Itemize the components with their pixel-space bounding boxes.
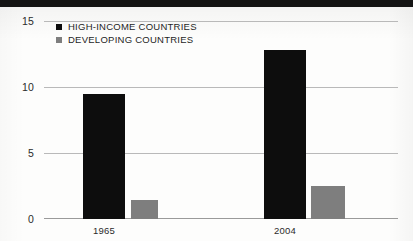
bar-developing-2004 — [311, 186, 345, 219]
x-axis-label-1965: 1965 — [83, 226, 125, 236]
gridline-10 — [44, 87, 398, 88]
bar-high-income-2004 — [264, 50, 306, 219]
legend-label-developing: DEVELOPING COUNTRIES — [68, 35, 193, 45]
y-axis-tick-10: 10 — [4, 82, 34, 93]
bar-chart: 15 10 5 0 1965 2004 HIGH-INCOME COUNTRIE… — [0, 0, 413, 241]
x-axis-label-2004: 2004 — [264, 226, 306, 236]
y-axis-tick-0: 0 — [4, 214, 34, 225]
y-axis-tick-15: 15 — [4, 16, 34, 27]
plot-area — [44, 21, 398, 219]
bar-developing-1965 — [131, 200, 158, 219]
scan-edge-strip — [0, 0, 413, 7]
bar-high-income-1965 — [83, 94, 125, 219]
legend-item-developing: DEVELOPING COUNTRIES — [56, 33, 197, 46]
legend-swatch-icon-developing — [56, 37, 62, 43]
legend-label-high-income: HIGH-INCOME COUNTRIES — [68, 22, 197, 32]
legend-item-high-income: HIGH-INCOME COUNTRIES — [56, 20, 197, 33]
legend-swatch-icon-high-income — [56, 24, 62, 30]
y-axis-tick-5: 5 — [4, 148, 34, 159]
chart-legend: HIGH-INCOME COUNTRIES DEVELOPING COUNTRI… — [56, 20, 197, 46]
